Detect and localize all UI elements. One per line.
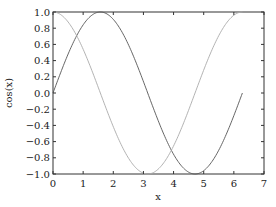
y-tick-label: 0.4: [34, 55, 50, 66]
x-tick-label: 2: [110, 178, 116, 189]
x-tick-label: 5: [201, 178, 207, 189]
y-tick-label: 0.8: [34, 23, 50, 34]
series-line-sinx: [53, 12, 242, 174]
x-tick-label: 1: [80, 178, 86, 189]
y-tick-label: 0.6: [34, 39, 50, 50]
y-tick-label: −0.8: [26, 152, 50, 163]
x-tick-label: 6: [231, 178, 237, 189]
y-tick-label: 0.2: [34, 71, 50, 82]
x-tick-label: 0: [50, 178, 56, 189]
y-tick-label: −1.0: [26, 169, 50, 180]
x-axis-ticks: 01234567: [50, 12, 267, 189]
y-axis-ticks: 1.00.80.60.40.20.0−0.2−0.4−0.6−0.8−1.0: [26, 7, 264, 180]
plot-area: [53, 12, 264, 174]
line-chart: 01234567 1.00.80.60.40.20.0−0.2−0.4−0.6−…: [0, 0, 276, 207]
chart-series: [53, 12, 242, 174]
y-tick-label: −0.2: [26, 104, 50, 115]
y-tick-label: 1.0: [34, 7, 50, 18]
y-tick-label: −0.4: [26, 120, 50, 131]
x-tick-label: 4: [170, 178, 176, 189]
y-axis-label: cos(x): [3, 78, 14, 108]
plot-frame: [53, 12, 264, 174]
x-tick-label: 3: [140, 178, 146, 189]
x-axis-label: x: [155, 191, 161, 202]
y-tick-label: 0.0: [34, 88, 50, 99]
x-tick-label: 7: [261, 178, 267, 189]
y-tick-label: −0.6: [26, 136, 50, 147]
